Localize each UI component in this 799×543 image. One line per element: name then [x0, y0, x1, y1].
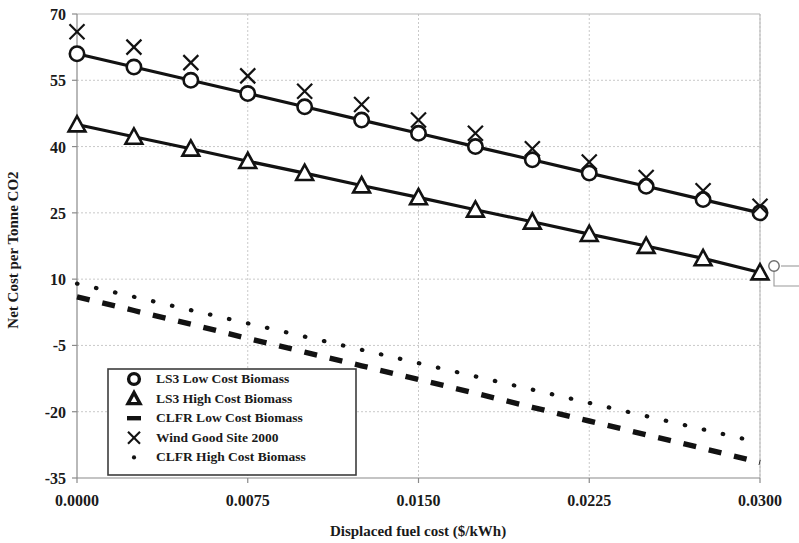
y-tick-label: -5 [53, 337, 66, 354]
y-tick-label: 10 [50, 271, 66, 288]
legend-item-label: CLFR High Cost Biomass [156, 449, 306, 464]
legend-item-label: LS3 Low Cost Biomass [156, 371, 289, 386]
line-chart: -35-20-51025405570 0.00000.00750.01500.0… [0, 0, 799, 543]
stub-circle-marker-icon [769, 261, 779, 271]
dot-marker-icon [132, 455, 136, 459]
y-tick-label: -35 [45, 470, 66, 487]
circle-marker-icon [129, 374, 140, 385]
circle-marker-icon [241, 86, 255, 100]
y-tick-label: 70 [50, 6, 66, 23]
circle-marker-icon [184, 73, 198, 87]
circle-marker-icon [127, 60, 141, 74]
legend-item-4[interactable]: CLFR High Cost Biomass [132, 449, 306, 464]
x-marker-icon [354, 97, 369, 112]
y-tick-label: 25 [50, 205, 66, 222]
legend-item-label: LS3 High Cost Biomass [156, 391, 292, 406]
triangle-marker-icon [69, 116, 86, 131]
y-axis-title: Net Cost per Tonne CO2 [5, 171, 21, 328]
circle-marker-icon [468, 139, 482, 153]
x-tick-label: 0.0150 [397, 492, 441, 509]
x-axis-title: Displaced fuel cost ($/kWh) [330, 523, 506, 540]
legend-item-label: CLFR Low Cost Biomass [156, 410, 303, 425]
cropped-legend-stub [769, 261, 799, 286]
chart-legend: LS3 Low Cost BiomassLS3 High Cost Biomas… [108, 369, 356, 475]
circle-marker-icon [411, 126, 425, 140]
y-axis-tick-labels: -35-20-51025405570 [45, 6, 66, 487]
x-tick-label: 0.0000 [55, 492, 99, 509]
x-tick-label: 0.0225 [567, 492, 611, 509]
x-axis-tick-labels: 0.00000.00750.01500.02250.0300 [55, 492, 782, 509]
x-tick-label: 0.0075 [226, 492, 270, 509]
circle-marker-icon [354, 113, 368, 127]
circle-marker-icon [753, 206, 767, 220]
y-tick-label: 40 [50, 139, 66, 156]
x-tick-label: 0.0300 [738, 492, 782, 509]
x-marker-icon [126, 40, 141, 55]
y-tick-label: -20 [45, 404, 66, 421]
series-3 [70, 24, 768, 214]
circle-marker-icon [297, 100, 311, 114]
x-marker-icon [183, 55, 198, 70]
legend-item-label: Wind Good Site 2000 [156, 430, 279, 445]
x-marker-icon [297, 84, 312, 99]
chart-container: -35-20-51025405570 0.00000.00750.01500.0… [0, 0, 799, 543]
y-tick-label: 55 [50, 72, 66, 89]
circle-marker-icon [70, 47, 84, 61]
